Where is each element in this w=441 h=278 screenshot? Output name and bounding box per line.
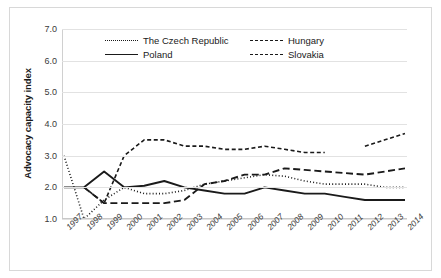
y-tick-label: 2.0 — [44, 182, 57, 192]
y-tick-label: 4.0 — [44, 119, 57, 129]
y-tick-label: 1.0 — [44, 214, 57, 224]
legend-label-czech: The Czech Republic — [143, 35, 229, 46]
legend-item-slovakia: Slovakia — [250, 49, 324, 60]
legend-label-hungary: Hungary — [288, 35, 324, 46]
y-tick-label: 5.0 — [44, 87, 57, 97]
gridline — [62, 92, 407, 93]
legend-swatch-dotted-icon — [105, 40, 138, 41]
legend-item-poland: Poland — [105, 49, 250, 60]
x-tick-label: 2014 — [405, 211, 425, 231]
series-line-hungary — [84, 140, 325, 203]
legend-item-czech: The Czech Republic — [105, 35, 250, 46]
legend-row: The Czech Republic Hungary — [105, 35, 405, 46]
gridline — [62, 124, 407, 125]
legend-swatch-solid-icon — [105, 54, 138, 55]
y-tick-label: 7.0 — [44, 24, 57, 34]
legend-item-hungary: Hungary — [250, 35, 324, 46]
legend-row: Poland Slovakia — [105, 49, 405, 60]
legend-swatch-dashed-icon — [250, 40, 283, 41]
gridline — [62, 29, 407, 30]
chart-legend: The Czech Republic Hungary Poland Slovak… — [105, 35, 405, 63]
legend-label-slovakia: Slovakia — [288, 49, 324, 60]
y-tick-label: 6.0 — [44, 56, 57, 66]
y-tick-label: 3.0 — [44, 151, 57, 161]
legend-swatch-longdash-icon — [250, 54, 283, 55]
gridline — [62, 187, 407, 188]
gridline — [62, 156, 407, 157]
legend-label-poland: Poland — [143, 49, 173, 60]
series-line-hungary — [365, 134, 405, 147]
y-axis-title: Advocacy capacity index — [22, 49, 33, 199]
chart-container: Advocacy capacity index 1.02.03.04.05.06… — [9, 7, 432, 271]
